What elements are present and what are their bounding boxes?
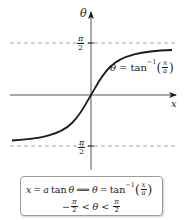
f1-a: a (43, 184, 49, 195)
f2-right-frac: π 2 (113, 199, 120, 214)
f2-theta: θ (93, 201, 99, 212)
f1-lparen: ( (135, 183, 140, 197)
f2-right-den: 2 (114, 207, 118, 214)
lower-asymptote-label: π 2 (78, 139, 85, 156)
f1-exp: −1 (125, 181, 135, 189)
lower-label-den: 2 (79, 148, 84, 156)
curve-label-exp: −1 (147, 59, 157, 66)
curve-label-fn: tan (130, 63, 146, 73)
f1-frac: x a (141, 182, 147, 197)
f1-theta2: θ (92, 184, 98, 195)
x-axis-label: x (171, 99, 177, 109)
f2-minus: − (62, 201, 70, 212)
f2-left-den: 2 (72, 207, 76, 214)
formula-line-1: x = a tan θ ⟹ θ = tan −1 ( x a ) (26, 182, 152, 197)
f1-implies: ⟹ (76, 184, 90, 195)
upper-asymptote-label: π 2 (77, 35, 84, 52)
f1-tan: tan (51, 184, 67, 195)
curve-label-frac: x a (162, 60, 168, 75)
f1-tan2: tan (110, 184, 126, 195)
f1-theta: θ (69, 184, 75, 195)
f1-rparen: ) (148, 183, 153, 197)
theta-axis-label: θ (80, 8, 87, 19)
f1-eq2: = (100, 184, 108, 195)
curve-label: θ = tan −1 ( x a ) (110, 60, 174, 75)
curve-label-lparen: ( (156, 62, 161, 74)
upper-label-den: 2 (78, 44, 83, 52)
f2-lt2: < (101, 201, 109, 212)
formula-box: x = a tan θ ⟹ θ = tan −1 ( x a ) − π 2 <… (20, 176, 163, 216)
formula-line-2: − π 2 < θ < π 2 (21, 199, 162, 214)
curve-label-den: a (163, 68, 167, 75)
curve-label-eq: = (119, 63, 127, 73)
f1-x: x (26, 184, 31, 195)
f1-den: a (141, 190, 145, 197)
f2-left-frac: π 2 (71, 199, 78, 214)
curve-label-theta: θ (110, 63, 116, 73)
f1-eq: = (33, 184, 41, 195)
f2-lt1: < (82, 201, 90, 212)
curve-label-rparen: ) (169, 62, 174, 74)
